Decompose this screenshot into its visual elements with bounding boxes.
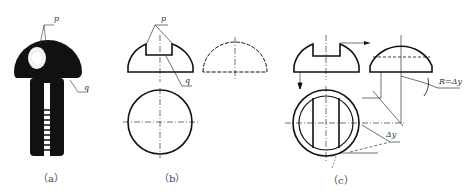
- panel-b-drawing: [123, 25, 267, 158]
- figure: p q p q R=Δy Δy （a） （b） （c）: [0, 0, 475, 196]
- panel-a-bolt-image: [14, 25, 88, 156]
- label-q-a: q: [84, 83, 89, 92]
- label-p-b: p: [161, 14, 166, 23]
- label-delta-y: Δy: [386, 130, 396, 139]
- label-radius: R=Δy: [439, 77, 462, 86]
- caption-a: （a）: [38, 170, 64, 185]
- drawing-canvas: [0, 0, 475, 196]
- label-q-b: q: [185, 76, 190, 85]
- caption-c: （c）: [328, 172, 354, 187]
- caption-b: （b）: [159, 170, 185, 185]
- panel-c-drawing: [285, 35, 460, 168]
- label-p-a: p: [54, 14, 59, 23]
